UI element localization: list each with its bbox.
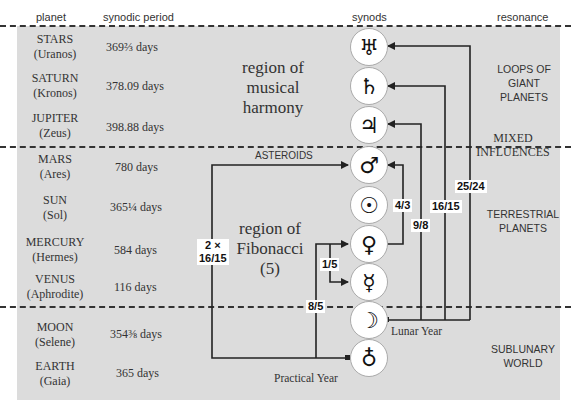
saturn-symbol-icon: ♄	[350, 67, 388, 105]
ratio-1-5: 1/5	[320, 258, 339, 271]
ratio-9-8: 9/8	[411, 219, 430, 232]
uranus-symbol-icon: ♅	[350, 28, 388, 66]
mars-symbol-icon: ♂	[350, 146, 388, 184]
ratio-25-24: 25/24	[455, 180, 487, 193]
lunar-year-label: Lunar Year	[391, 325, 442, 337]
ratio-8-5: 8/5	[306, 300, 325, 313]
practical-year-label: Practical Year	[274, 372, 338, 384]
asteroids-label: ASTEROIDS	[255, 150, 313, 161]
ratio-4-3: 4/3	[393, 199, 412, 212]
sun-symbol-icon: ☉	[350, 186, 388, 224]
earth-symbol-icon: ♁	[350, 339, 388, 377]
ratio-2x-16-15: 2 ×16/15	[197, 239, 229, 265]
moon-symbol-icon: ☽	[350, 301, 388, 339]
venus-symbol-icon: ♀	[350, 225, 388, 263]
mercury-symbol-icon: ☿	[350, 263, 388, 301]
jupiter-symbol-icon: ♃	[350, 106, 388, 144]
connector-lines	[0, 0, 571, 412]
ratio-16-15: 16/15	[430, 200, 462, 213]
